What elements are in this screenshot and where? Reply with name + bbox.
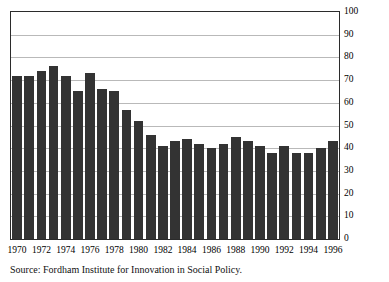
x-axis-ticks: 1970197219741976197819801982198419861988… bbox=[0, 245, 389, 259]
bar-1987 bbox=[219, 144, 229, 239]
x-tick-label-1984: 1984 bbox=[178, 245, 197, 255]
x-tick-label-1970: 1970 bbox=[8, 245, 27, 255]
bar-1982 bbox=[158, 146, 168, 239]
bar-series bbox=[11, 12, 339, 239]
plot-area bbox=[10, 11, 340, 240]
y-tick-label-20: 20 bbox=[344, 189, 354, 199]
bar-1973 bbox=[49, 66, 59, 239]
bar-1985 bbox=[194, 144, 204, 239]
bar-1991 bbox=[267, 153, 277, 239]
x-tick-label-1988: 1988 bbox=[226, 245, 245, 255]
bar-1984 bbox=[182, 139, 192, 239]
y-tick-label-40: 40 bbox=[344, 143, 354, 153]
x-tick-label-1982: 1982 bbox=[153, 245, 172, 255]
source-note: Source: Fordham Institute for Innovation… bbox=[10, 264, 242, 276]
bar-1996 bbox=[328, 141, 338, 239]
bar-1995 bbox=[316, 148, 326, 239]
bar-1975 bbox=[73, 91, 83, 239]
x-tick-label-1974: 1974 bbox=[56, 245, 75, 255]
x-tick-label-1972: 1972 bbox=[32, 245, 51, 255]
y-tick-label-10: 10 bbox=[344, 211, 354, 221]
y-tick-label-70: 70 bbox=[344, 75, 354, 85]
bar-1980 bbox=[134, 121, 144, 239]
bar-1979 bbox=[122, 110, 132, 239]
x-tick-label-1996: 1996 bbox=[323, 245, 342, 255]
bar-1976 bbox=[85, 73, 95, 239]
bar-1983 bbox=[170, 141, 180, 239]
x-tick-label-1990: 1990 bbox=[251, 245, 270, 255]
bar-1989 bbox=[243, 141, 253, 239]
y-axis-ticks: 0102030405060708090100 bbox=[344, 0, 389, 250]
bar-1981 bbox=[146, 135, 156, 239]
y-tick-label-30: 30 bbox=[344, 166, 354, 176]
x-tick-label-1980: 1980 bbox=[129, 245, 148, 255]
bar-1978 bbox=[109, 91, 119, 239]
y-tick-label-60: 60 bbox=[344, 98, 354, 108]
bar-1994 bbox=[304, 153, 314, 239]
bar-1988 bbox=[231, 137, 241, 239]
bar-1986 bbox=[207, 148, 217, 239]
x-tick-label-1976: 1976 bbox=[81, 245, 100, 255]
x-tick-label-1978: 1978 bbox=[105, 245, 124, 255]
bar-1990 bbox=[255, 146, 265, 239]
y-tick-label-100: 100 bbox=[344, 7, 358, 17]
bar-1971 bbox=[24, 76, 34, 239]
x-tick-label-1992: 1992 bbox=[275, 245, 294, 255]
chart-figure: 0102030405060708090100 19701972197419761… bbox=[0, 0, 389, 282]
bar-1970 bbox=[12, 76, 22, 239]
bar-1974 bbox=[61, 76, 71, 239]
y-tick-label-0: 0 bbox=[344, 234, 349, 244]
x-tick-label-1986: 1986 bbox=[202, 245, 221, 255]
y-tick-label-50: 50 bbox=[344, 121, 354, 131]
y-tick-label-80: 80 bbox=[344, 52, 354, 62]
bar-1992 bbox=[279, 146, 289, 239]
x-tick-label-1994: 1994 bbox=[299, 245, 318, 255]
bar-1993 bbox=[292, 153, 302, 239]
bar-1972 bbox=[37, 71, 47, 239]
bar-1977 bbox=[97, 89, 107, 239]
y-tick-label-90: 90 bbox=[344, 30, 354, 40]
